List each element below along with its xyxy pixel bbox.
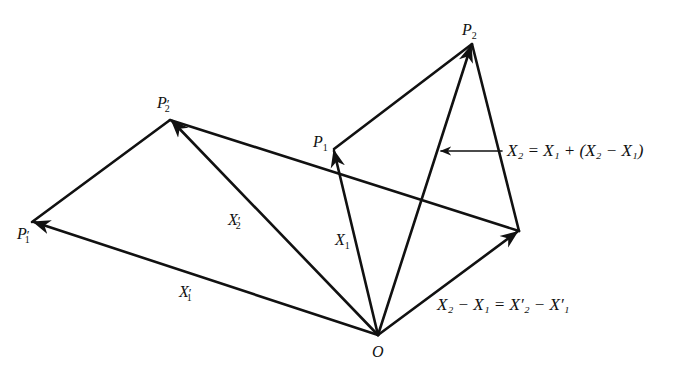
vector-x2-minus-x1 bbox=[378, 232, 517, 335]
equation-x2: X₂ = X₁ + (X₂ − X₁) bbox=[507, 142, 643, 159]
label-p2: P2 bbox=[462, 22, 477, 41]
segment-p2-q bbox=[472, 44, 519, 231]
segment-p1-p2 bbox=[334, 44, 472, 149]
label-origin: O bbox=[372, 344, 384, 360]
segment-p2p-q bbox=[170, 120, 519, 231]
label-p1-prime: P′1 bbox=[17, 226, 30, 245]
segment-p1p-p2p bbox=[32, 120, 170, 222]
vector-diagram bbox=[0, 0, 690, 373]
label-x2-prime: X′2 bbox=[228, 212, 241, 231]
label-p1: P1 bbox=[313, 134, 328, 153]
label-x1: X1 bbox=[335, 232, 350, 251]
label-x1-prime: X′1 bbox=[179, 284, 192, 303]
equation-difference: X₂ − X₁ = X′₂ − X′₁ bbox=[437, 296, 570, 313]
label-p2-prime: P′2 bbox=[157, 95, 170, 114]
vector-x1-prime bbox=[34, 222, 378, 335]
